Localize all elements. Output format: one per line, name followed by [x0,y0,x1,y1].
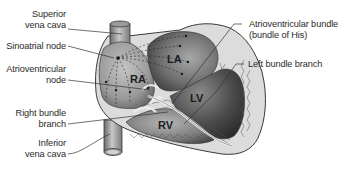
label-atrioventricular-bundle: Atrioventricular bundle (bundle of His) [249,19,338,40]
heart-conduction-diagram: RA LA LV RV Superior vena cava Sinoatria… [0,0,340,170]
label-atrioventricular-node: Atrioventricular node [6,64,66,85]
chamber-label-la: LA [167,53,182,65]
chamber-label-lv: LV [190,92,203,104]
label-sinoatrial-node: Sinoatrial node [6,41,66,52]
chamber-label-ra: RA [130,73,146,85]
label-right-bundle-branch: Right bundle branch [16,108,66,129]
label-left-bundle-branch: Left bundle branch [248,59,322,70]
label-superior-vena-cava: Superior vena cava [25,9,66,30]
label-inferior-vena-cava: Inferior vena cava [25,138,66,159]
chamber-label-rv: RV [158,119,173,131]
